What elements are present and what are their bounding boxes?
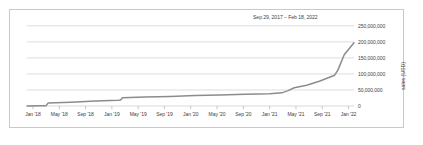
x-axis-tick-marks [33, 106, 349, 109]
sales-line-series [27, 43, 354, 106]
chart-frame: Sep 29, 2017 – Feb 18, 2022 sales (USD) … [9, 9, 404, 128]
line-chart-plot [10, 10, 405, 129]
gridlines [27, 26, 354, 106]
